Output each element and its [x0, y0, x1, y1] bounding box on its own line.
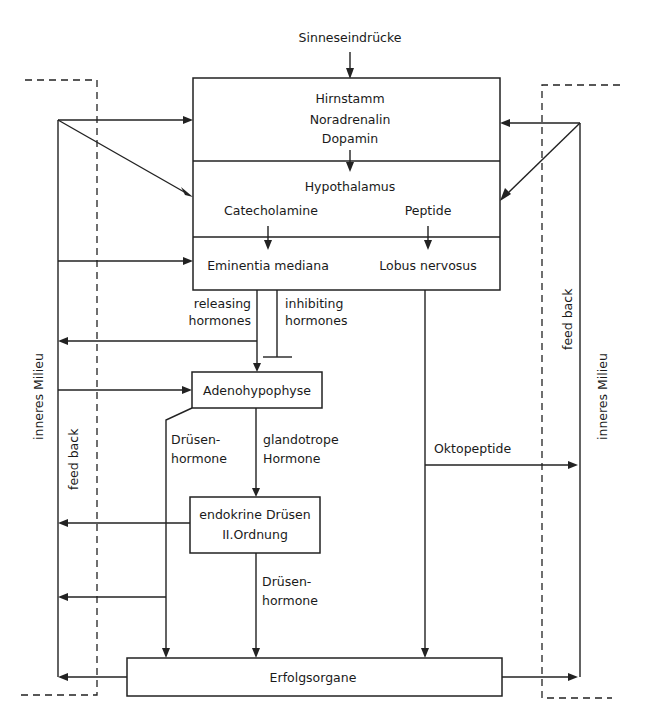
glandotrope-label-1: glandotrope	[263, 432, 339, 447]
hirnstamm-title: Hirnstamm	[315, 91, 384, 106]
input-label: Sinneseindrücke	[299, 30, 402, 45]
lobus-label: Lobus nervosus	[379, 258, 476, 273]
catecholamine-label: Catecholamine	[224, 203, 318, 218]
releasing-label-2: hormones	[189, 313, 251, 328]
hypothalamus-title: Hypothalamus	[305, 179, 396, 194]
right-arrow-hirnstamm	[500, 119, 580, 127]
druesen-left-label-1: Drüsen-	[171, 432, 220, 447]
erfolgsorgane-label: Erfolgsorgane	[270, 670, 357, 685]
inhibiting-label-1: inhibiting	[285, 296, 343, 311]
dopamin-label: Dopamin	[322, 131, 378, 146]
diagram-svg: Sinneseindrücke Hirnstamm Noradrenalin D…	[0, 0, 645, 725]
input-arrow	[346, 52, 354, 79]
releasing-label-1: releasing	[194, 296, 251, 311]
erfolgsorgane-right-arrow	[502, 673, 578, 681]
left-arrow-adenohypophyse	[58, 386, 192, 394]
neuroendocrine-diagram: Sinneseindrücke Hirnstamm Noradrenalin D…	[0, 0, 645, 725]
druesen-left-label-2: hormone	[171, 451, 227, 466]
oktopeptide-label: Oktopeptide	[434, 441, 511, 456]
endokrine-box	[190, 497, 320, 553]
endokrine-feedback-arrow	[58, 519, 190, 527]
druesen-mid-label-2: hormone	[262, 593, 318, 608]
glandotrope-label-2: Hormone	[263, 451, 321, 466]
peptide-label: Peptide	[405, 203, 452, 218]
left-arrow-hirnstamm	[58, 116, 193, 124]
erfolgsorgane-left-arrow	[58, 673, 127, 681]
eminentia-label: Eminentia mediana	[207, 258, 329, 273]
adenohypophyse-label: Adenohypophyse	[203, 383, 311, 398]
left-arrow-hypothalamus	[58, 120, 193, 197]
left-feedback-label: feed back	[66, 428, 81, 490]
inhibiting-label-2: hormones	[285, 313, 347, 328]
druesen-left-feedback-arrow	[58, 593, 166, 601]
right-arrow-hypothalamus	[500, 123, 580, 201]
left-milieu-label: inneres Milieu	[31, 353, 46, 440]
endokrine-label-1: endokrine Drüsen	[199, 507, 310, 522]
oktopeptide-arrow	[425, 461, 578, 469]
releasing-feedback-arrow	[58, 337, 257, 345]
druesen-mid-label-1: Drüsen-	[262, 574, 311, 589]
noradrenalin-label: Noradrenalin	[310, 112, 391, 127]
right-feedback-label: feed back	[560, 288, 575, 350]
endokrine-label-2: II.Ordnung	[222, 527, 288, 542]
right-milieu-label: inneres Milieu	[595, 353, 610, 440]
left-arrow-eminentia	[58, 257, 193, 265]
